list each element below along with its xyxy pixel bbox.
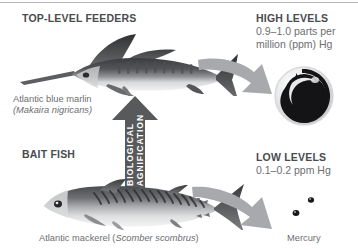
marlin-caption: Atlantic blue marlin (Makaira nigricans) bbox=[13, 94, 92, 117]
mercury-droplets-small bbox=[285, 192, 321, 224]
magnification-label-line-1: BIOLOGICAL bbox=[126, 123, 135, 186]
flow-arrow-marlin-to-mercury bbox=[196, 54, 288, 116]
mackerel-common-name: Atlantic mackerel ( bbox=[39, 233, 115, 243]
high-levels-line-2: million (ppm) Hg bbox=[256, 38, 335, 51]
low-levels-value: 0.1–0.2 ppm Hg bbox=[256, 164, 331, 177]
infographic-canvas: TOP-LEVEL FEEDERS BAIT FISH HIGH LEVELS … bbox=[0, 0, 358, 250]
mackerel-caption: Atlantic mackerel (Scomber scombrus) bbox=[39, 233, 199, 244]
flow-arrow-mackerel-to-mercury bbox=[190, 183, 286, 241]
section-heading-bait-fish: BAIT FISH bbox=[22, 148, 75, 160]
marlin-common-name: Atlantic blue marlin bbox=[13, 94, 92, 105]
section-heading-low-levels: LOW LEVELS bbox=[256, 151, 326, 163]
section-heading-high-levels: HIGH LEVELS bbox=[256, 12, 328, 24]
low-levels-line-1: 0.1–0.2 ppm Hg bbox=[256, 164, 331, 177]
high-levels-line-1: 0.9–1.0 parts per bbox=[256, 25, 335, 38]
mackerel-scientific-name: Scomber scombrus bbox=[115, 233, 195, 243]
marlin-scientific-name: (Makaira nigricans) bbox=[13, 105, 92, 116]
high-levels-value: 0.9–1.0 parts per million (ppm) Hg bbox=[256, 25, 335, 50]
mercury-caption: Mercury bbox=[287, 233, 321, 244]
section-heading-top-level-feeders: TOP-LEVEL FEEDERS bbox=[22, 12, 136, 24]
top-divider-rule bbox=[0, 2, 358, 3]
